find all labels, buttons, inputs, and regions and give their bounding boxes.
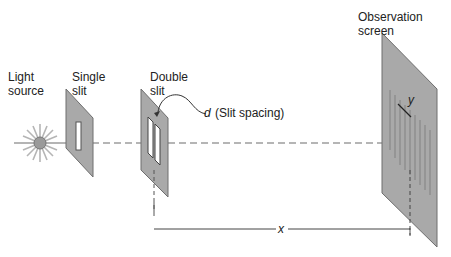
label-light-source-1: Light: [8, 70, 35, 84]
label-light-source-2: source: [8, 84, 44, 98]
label-single-slit-2: slit: [72, 84, 87, 98]
double-slit-diagram: Light source Single slit Double slit d (…: [0, 0, 451, 257]
observation-screen: [382, 33, 437, 247]
label-double-slit-2: slit: [150, 84, 165, 98]
light-source-icon: [21, 124, 59, 162]
slit-spacing-callout: [158, 95, 206, 114]
label-observation-screen-1: Observation: [358, 10, 423, 24]
label-single-slit-1: Single: [72, 70, 106, 84]
label-slit-spacing: (Slit spacing): [215, 106, 284, 120]
label-observation-screen-2: screen: [358, 24, 394, 38]
label-d-symbol: d: [204, 106, 211, 120]
single-slit-plate: [66, 89, 93, 177]
label-x-symbol: x: [277, 222, 285, 236]
label-double-slit-1: Double: [150, 70, 188, 84]
label-y-symbol: y: [407, 93, 415, 107]
double-slit-plate: [141, 89, 168, 212]
